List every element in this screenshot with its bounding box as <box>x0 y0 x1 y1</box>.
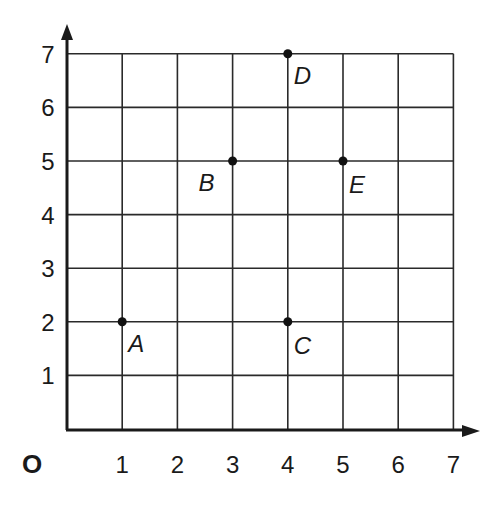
y-tick-label: 5 <box>41 148 54 175</box>
x-tick-label: 7 <box>447 451 460 478</box>
y-tick-label: 7 <box>41 41 54 68</box>
point-label: E <box>349 171 366 198</box>
point-marker-icon <box>228 157 237 166</box>
x-tick-label: 1 <box>116 451 129 478</box>
y-tick-label: 1 <box>41 362 54 389</box>
origin-label: O <box>22 449 42 479</box>
point-b: B <box>199 157 238 197</box>
x-tick-label: 4 <box>281 451 294 478</box>
x-tick-labels: 1234567 <box>116 451 461 478</box>
x-tick-label: 5 <box>336 451 349 478</box>
point-marker-icon <box>339 157 348 166</box>
y-tick-label: 2 <box>41 309 54 336</box>
point-label: C <box>294 332 312 359</box>
y-tick-label: 4 <box>41 202 54 229</box>
x-tick-label: 6 <box>392 451 405 478</box>
point-label: B <box>199 169 215 196</box>
y-tick-label: 6 <box>41 94 54 121</box>
coordinate-grid: 1234567 1234567 O ABCDE <box>0 0 500 508</box>
point-marker-icon <box>283 317 292 326</box>
point-marker-icon <box>283 49 292 58</box>
y-tick-label: 3 <box>41 255 54 282</box>
point-label: A <box>126 330 144 357</box>
point-marker-icon <box>118 317 127 326</box>
y-axis-arrow-icon <box>61 24 73 40</box>
y-tick-labels: 1234567 <box>41 41 54 390</box>
data-points: ABCDE <box>118 49 366 359</box>
x-tick-label: 2 <box>171 451 184 478</box>
x-axis-arrow-icon <box>462 425 480 437</box>
grid-lines <box>67 54 453 429</box>
point-label: D <box>294 62 311 89</box>
x-tick-label: 3 <box>226 451 239 478</box>
